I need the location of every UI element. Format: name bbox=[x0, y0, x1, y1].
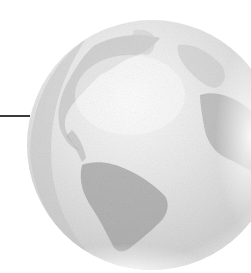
globe-icon bbox=[0, 0, 251, 273]
globe-figure bbox=[0, 0, 251, 273]
